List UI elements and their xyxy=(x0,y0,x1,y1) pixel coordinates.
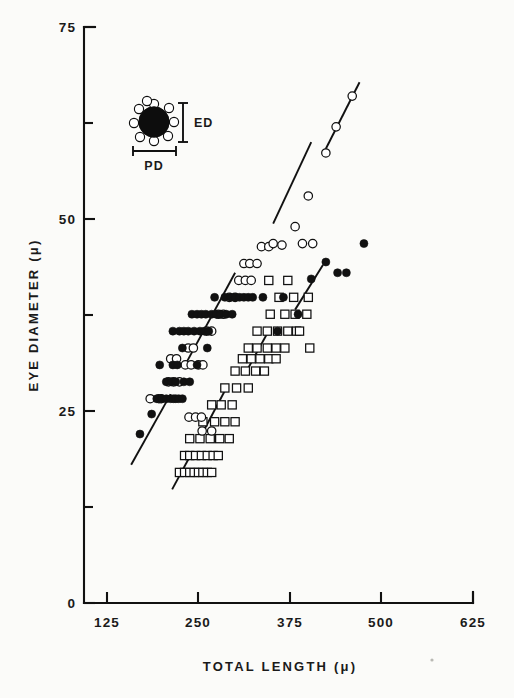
inset-pigment-mass xyxy=(139,107,169,137)
data-point-open-square xyxy=(303,310,311,318)
y-axis-title: EYE DIAMETER (μ) xyxy=(26,239,41,392)
data-point-open-square xyxy=(266,310,274,318)
data-point-filled-circle xyxy=(307,275,315,283)
regression-segment xyxy=(295,265,323,310)
data-point-open-square xyxy=(263,344,271,352)
data-point-filled-circle xyxy=(360,240,368,248)
data-point-filled-circle xyxy=(156,361,164,369)
x-axis-title: TOTAL LENGTH (μ) xyxy=(203,659,357,674)
data-point-filled-circle xyxy=(274,327,282,335)
scan-artifact-speck xyxy=(430,658,433,661)
data-point-open-square xyxy=(284,276,292,284)
y-tick-label-75: 75 xyxy=(59,20,76,35)
data-point-filled-circle xyxy=(148,410,156,418)
data-point-filled-circle xyxy=(173,361,181,369)
data-point-open-circle xyxy=(269,239,277,247)
figure-container: 75 50 25 0 125 250 375 500 625 TOTAL LEN… xyxy=(0,0,514,698)
x-tick-label-250: 250 xyxy=(185,615,211,630)
data-point-open-square xyxy=(256,355,264,363)
y-axis-minor-ticks xyxy=(84,123,93,507)
data-point-open-square xyxy=(244,344,252,352)
data-point-open-square xyxy=(208,468,216,476)
data-point-open-square xyxy=(214,451,222,459)
data-point-filled-circle xyxy=(342,269,350,277)
data-point-open-circle xyxy=(278,241,286,249)
x-tick-label-625: 625 xyxy=(460,615,486,630)
data-point-open-square xyxy=(263,327,271,335)
data-point-open-square xyxy=(306,344,314,352)
data-point-open-square xyxy=(260,367,268,375)
data-point-filled-circle xyxy=(178,344,186,352)
data-point-filled-circle xyxy=(259,293,267,301)
regression-segment xyxy=(273,142,311,223)
data-point-open-square xyxy=(244,384,252,392)
y-tick-label-50: 50 xyxy=(59,212,76,227)
data-point-filled-circle xyxy=(205,327,213,335)
data-point-open-square xyxy=(232,384,240,392)
data-point-filled-circle xyxy=(203,344,211,352)
data-point-open-square xyxy=(295,327,303,335)
data-point-open-square xyxy=(251,367,259,375)
data-point-open-circle xyxy=(348,92,356,100)
data-point-open-square xyxy=(265,276,273,284)
x-tick-label-125: 125 xyxy=(94,615,120,630)
data-point-open-circle xyxy=(198,427,206,435)
data-point-open-square xyxy=(221,384,229,392)
x-tick-label-375: 375 xyxy=(277,615,303,630)
data-point-filled-circle xyxy=(294,310,302,318)
data-point-open-square xyxy=(304,293,312,301)
data-point-open-circle xyxy=(291,222,299,230)
data-point-open-square xyxy=(231,418,239,426)
data-point-open-circle xyxy=(247,276,255,284)
pd-label: PD xyxy=(144,159,163,173)
data-point-open-square xyxy=(196,435,204,443)
filled-circle-series-layer xyxy=(136,240,368,438)
data-point-open-square xyxy=(272,344,280,352)
x-tick-label-500: 500 xyxy=(368,615,394,630)
data-point-open-circle xyxy=(189,344,197,352)
data-point-filled-circle xyxy=(334,269,342,277)
regression-lines-layer xyxy=(131,82,359,489)
pd-caliper xyxy=(133,146,176,156)
data-point-open-square xyxy=(211,418,219,426)
data-point-filled-circle xyxy=(193,361,201,369)
data-point-filled-circle xyxy=(172,378,180,386)
data-point-open-square xyxy=(217,401,225,409)
data-point-open-circle xyxy=(308,239,316,247)
data-point-open-circle xyxy=(207,427,215,435)
ed-label: ED xyxy=(194,116,213,130)
y-tick-label-25: 25 xyxy=(59,404,76,419)
data-point-open-square xyxy=(216,435,224,443)
data-point-open-square xyxy=(241,367,249,375)
data-point-open-square xyxy=(221,418,229,426)
data-point-filled-circle xyxy=(186,378,194,386)
data-point-open-square xyxy=(253,344,261,352)
data-point-open-square xyxy=(231,367,239,375)
data-point-filled-circle xyxy=(136,430,144,438)
data-point-open-square xyxy=(284,327,292,335)
ed-caliper xyxy=(178,103,188,142)
data-point-filled-circle xyxy=(211,293,219,301)
data-point-filled-circle xyxy=(228,310,236,318)
eye-schematic-inset: ED PD xyxy=(129,96,213,173)
data-point-open-square xyxy=(225,435,233,443)
y-tick-label-0: 0 xyxy=(67,596,76,611)
x-axis-ticks xyxy=(107,592,473,603)
data-point-open-square xyxy=(238,355,246,363)
data-point-open-square xyxy=(206,435,214,443)
data-point-filled-circle xyxy=(322,258,330,266)
data-point-open-square xyxy=(281,310,289,318)
data-point-open-square xyxy=(272,355,280,363)
data-point-filled-circle xyxy=(178,395,186,403)
data-point-open-circle xyxy=(304,192,312,200)
data-point-open-square xyxy=(247,355,255,363)
data-point-open-circle xyxy=(332,123,340,131)
data-point-open-square xyxy=(186,435,194,443)
data-point-open-circle xyxy=(253,259,261,267)
data-point-open-circle xyxy=(298,239,306,247)
data-point-open-square xyxy=(253,327,261,335)
regression-segment xyxy=(131,394,171,465)
data-point-open-square xyxy=(290,293,298,301)
data-point-open-square xyxy=(228,401,236,409)
data-point-open-circle xyxy=(197,413,205,421)
